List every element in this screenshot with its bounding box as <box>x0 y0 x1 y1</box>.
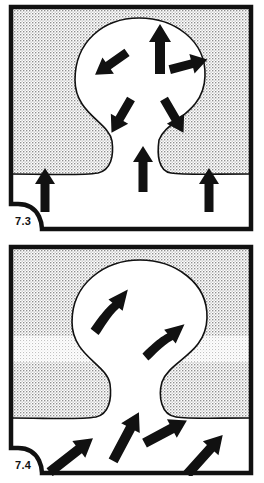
figure-panel-7-3: 7.3 <box>8 4 254 232</box>
figure-label-7-3: 7.3 <box>15 215 31 227</box>
figure-sheet: 7.3 <box>0 0 264 483</box>
figure-label-7-4: 7.4 <box>15 459 32 471</box>
figure-panel-7-4: 7.4 <box>8 244 254 476</box>
